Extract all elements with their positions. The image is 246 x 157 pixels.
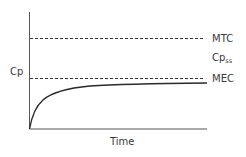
x-axis-label: Time [109,136,134,147]
chart: Cp Time MTC MEC Cpss [0,0,246,157]
cpss-label: Cpss [212,52,233,65]
mec-label: MEC [212,73,234,84]
cpss-subscript: ss [225,57,232,65]
concentration-curve [30,83,208,129]
mtc-label: MTC [212,33,233,44]
y-axis-label: Cp [10,66,23,77]
cpss-main: Cp [212,52,225,63]
